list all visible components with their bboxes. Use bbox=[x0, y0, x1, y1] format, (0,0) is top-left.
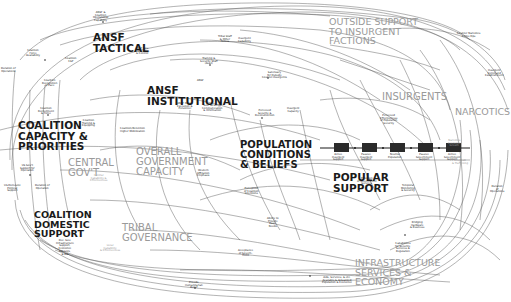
stock-box bbox=[362, 143, 377, 152]
stock-label: Active Insurgent Support bbox=[332, 154, 344, 162]
sector-label-population: POPULATION CONDITIONS & BELIEFS bbox=[240, 140, 312, 170]
variable-node: Coalition Force Availability bbox=[26, 50, 40, 58]
variable-node: Duration of Operation bbox=[35, 185, 50, 190]
sector-label-ansf-institutional: ANSF INSTITUTIONAL bbox=[147, 85, 238, 106]
variable-node: Perceived Effectiveness of Population Se… bbox=[380, 115, 397, 126]
variable-node: Duration of Operations bbox=[1, 68, 16, 73]
stock-label: Passive Government Support bbox=[416, 154, 432, 162]
sector-label-outside-support: OUTSIDE SUPPORT TO INSURGENT FACTIONS bbox=[329, 17, 418, 46]
variable-node: Coalition/Retention Higher Mobilization bbox=[120, 128, 145, 133]
variable-node: Coalition CSP bbox=[65, 58, 76, 63]
stock-box bbox=[418, 143, 433, 152]
sector-label-coalition-capacity: COALITION CAPACITY & PRIORITIES bbox=[18, 120, 88, 152]
variable-node: US Gov't Support for Operation bbox=[20, 165, 35, 173]
variable-node: Insurgent Capability bbox=[238, 38, 251, 43]
stock-label: Neutral Population bbox=[388, 154, 402, 159]
variable-node: Counter Narcotics Crime Ops bbox=[457, 33, 480, 38]
variable-node: Acceptance of Govern- ment bbox=[238, 250, 253, 258]
sector-label-popular-support: POPULAR SUPPORT bbox=[333, 172, 389, 193]
variable-node: Training & Security Staff (Avail) bbox=[200, 58, 218, 66]
variable-node: Drug Lab & Trafficking bbox=[452, 160, 468, 165]
sector-label-overall-government: OVERALL GOVERNMENT CAPACITY bbox=[136, 147, 208, 177]
arrowheads bbox=[29, 21, 440, 289]
variable-node: Sanctuary for Outside Counter-Insurgents bbox=[262, 72, 287, 80]
variable-node: Ability to Provide Basic Needs bbox=[267, 218, 279, 229]
variable-node: Bridging Hardware & Business bbox=[410, 222, 424, 230]
variable-node: Perception of Coalition Intentions bbox=[244, 188, 259, 196]
variable-node: Perceived Security & Reconstruction bbox=[255, 110, 274, 118]
sector-label-coalition-domestic: COALITION DOMESTIC SUPPORT bbox=[34, 210, 92, 239]
sector-label-insurgents: INSURGENTS bbox=[382, 92, 447, 102]
variable-node: Local Capability & Effectiveness bbox=[100, 245, 120, 253]
variable-node: Coalition Recognition of Pace bbox=[42, 80, 57, 88]
variable-node: US Domestic Political Support bbox=[4, 185, 21, 193]
sector-label-ansf-tactical: ANSF TACTICAL bbox=[93, 32, 149, 53]
stock-box bbox=[390, 143, 405, 152]
variable-node: Narcotics Economic Growth bbox=[448, 140, 461, 148]
variable-node: Temporal Monitoring & Security bbox=[401, 185, 415, 193]
variable-node: ANSF & Coalition Operational Capability bbox=[93, 12, 108, 23]
stock-box bbox=[334, 143, 349, 152]
variable-node: Insurgent Command Establishment bbox=[485, 70, 503, 78]
variable-node: Aids, Services, & etc. Available & Actua… bbox=[322, 277, 352, 285]
variable-node: ANSF bbox=[197, 80, 204, 83]
sector-label-tribal-governance: TRIBAL GOVERNANCE bbox=[122, 223, 193, 243]
sector-label-narcotics: NARCOTICS bbox=[455, 107, 510, 117]
variable-node: Coalition Recruitment & Force bbox=[38, 108, 54, 116]
variable-node: Capabilities for Security, Services & Re… bbox=[395, 243, 411, 254]
variable-node: Insurgent Capacity bbox=[287, 108, 299, 113]
sector-label-infrastructure: INFRASTRUCTURE SERVICES & ECONOMY bbox=[355, 258, 440, 287]
variable-node: Tribal Staff & Other Forces bbox=[218, 36, 232, 44]
variable-node: Dec. Gov. Infrastructure Support, Econom… bbox=[56, 240, 74, 256]
variable-node: Duration of Operations bbox=[490, 186, 504, 194]
variable-node: Provide Humanitarian Relief bbox=[185, 282, 203, 290]
stock-label: Passive Insurgent Support bbox=[360, 154, 372, 162]
sector-label-central-govt: CENTRAL GOV'T bbox=[68, 158, 114, 178]
